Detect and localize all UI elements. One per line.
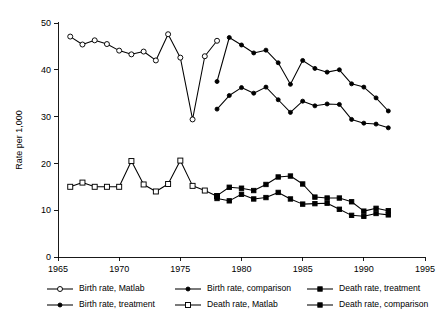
- data-point-marker: [252, 197, 256, 201]
- data-point-marker: [374, 122, 378, 126]
- data-point-marker: [92, 38, 97, 43]
- data-point-marker: [318, 287, 322, 291]
- data-point-marker: [68, 184, 73, 189]
- chart-background: [0, 0, 440, 324]
- data-point-marker: [288, 110, 292, 114]
- data-point-marker: [252, 51, 256, 55]
- data-point-marker: [215, 107, 219, 111]
- data-point-marker: [141, 49, 146, 54]
- data-point-marker: [374, 206, 378, 210]
- legend-label: Birth rate, comparison: [207, 283, 291, 293]
- chart-figure: 01020304050 1965197019751980198519901995…: [0, 0, 440, 324]
- data-point-marker: [227, 199, 231, 203]
- y-axis-title: Rate per 1,000: [14, 110, 24, 170]
- data-point-marker: [362, 214, 366, 218]
- data-point-marker: [301, 58, 305, 62]
- data-point-marker: [349, 213, 353, 217]
- legend-label: Death rate, comparison: [339, 299, 429, 309]
- data-point-marker: [264, 48, 268, 52]
- data-point-marker: [202, 188, 207, 193]
- data-point-marker: [58, 303, 62, 307]
- data-point-marker: [386, 126, 390, 130]
- data-point-marker: [104, 42, 109, 47]
- y-tick-label: 0: [46, 252, 51, 262]
- data-point-marker: [80, 42, 85, 47]
- data-point-marker: [153, 58, 158, 63]
- x-tick-label: 1985: [293, 264, 313, 274]
- data-point-marker: [337, 102, 341, 106]
- x-tick-label: 1990: [354, 264, 374, 274]
- data-point-marker: [264, 182, 268, 186]
- data-point-marker: [350, 117, 354, 121]
- data-point-marker: [178, 55, 183, 60]
- data-point-marker: [190, 117, 195, 122]
- data-point-marker: [80, 180, 85, 185]
- data-point-marker: [186, 287, 190, 291]
- data-point-marker: [141, 182, 146, 187]
- data-point-marker: [349, 200, 353, 204]
- data-point-marker: [337, 196, 341, 200]
- y-tick-label: 20: [41, 159, 51, 169]
- data-point-marker: [301, 99, 305, 103]
- data-point-marker: [68, 34, 73, 39]
- data-point-marker: [227, 94, 231, 98]
- data-point-marker: [313, 195, 317, 199]
- data-point-marker: [350, 82, 354, 86]
- data-point-marker: [276, 98, 280, 102]
- y-tick-label: 40: [41, 65, 51, 75]
- y-tick-label: 50: [41, 18, 51, 28]
- data-point-marker: [300, 182, 304, 186]
- data-point-marker: [166, 32, 171, 37]
- data-point-marker: [276, 175, 280, 179]
- data-point-marker: [264, 85, 268, 89]
- legend-label: Death rate, treatment: [339, 283, 421, 293]
- data-point-marker: [153, 189, 158, 194]
- x-tick-label: 1970: [109, 264, 129, 274]
- data-point-marker: [313, 201, 317, 205]
- data-point-marker: [215, 38, 220, 43]
- data-point-marker: [362, 85, 366, 89]
- data-point-marker: [318, 303, 322, 307]
- data-point-marker: [362, 121, 366, 125]
- legend-label: Birth rate, Matlab: [79, 283, 145, 293]
- x-tick-label: 1995: [415, 264, 435, 274]
- data-point-marker: [227, 185, 231, 189]
- legend-label: Death rate, Matlab: [207, 299, 278, 309]
- y-tick-label: 30: [41, 112, 51, 122]
- x-tick-label: 1975: [170, 264, 190, 274]
- data-point-marker: [117, 48, 122, 53]
- data-point-marker: [374, 96, 378, 100]
- data-point-marker: [240, 43, 244, 47]
- data-point-marker: [386, 213, 390, 217]
- data-point-marker: [288, 197, 292, 201]
- legend-label: Birth rate, treatment: [79, 299, 156, 309]
- data-point-marker: [337, 68, 341, 72]
- data-point-marker: [300, 202, 304, 206]
- data-point-marker: [227, 36, 231, 40]
- data-point-marker: [288, 174, 292, 178]
- data-point-marker: [215, 80, 219, 84]
- x-tick-label: 1980: [231, 264, 251, 274]
- data-point-marker: [325, 70, 329, 74]
- data-point-marker: [186, 303, 191, 308]
- data-point-marker: [374, 211, 378, 215]
- data-point-marker: [166, 181, 171, 186]
- data-point-marker: [58, 287, 63, 292]
- data-point-marker: [325, 201, 329, 205]
- data-point-marker: [276, 61, 280, 65]
- data-point-marker: [325, 102, 329, 106]
- data-point-marker: [252, 188, 256, 192]
- y-tick-label: 10: [41, 205, 51, 215]
- data-point-marker: [288, 82, 292, 86]
- data-point-marker: [129, 159, 134, 164]
- data-point-marker: [178, 158, 183, 163]
- data-point-marker: [313, 66, 317, 70]
- data-point-marker: [117, 184, 122, 189]
- data-point-marker: [386, 208, 390, 212]
- x-tick-label: 1965: [48, 264, 68, 274]
- data-point-marker: [386, 109, 390, 113]
- data-point-marker: [239, 186, 243, 190]
- data-point-marker: [92, 184, 97, 189]
- data-point-marker: [239, 192, 243, 196]
- data-point-marker: [362, 209, 366, 213]
